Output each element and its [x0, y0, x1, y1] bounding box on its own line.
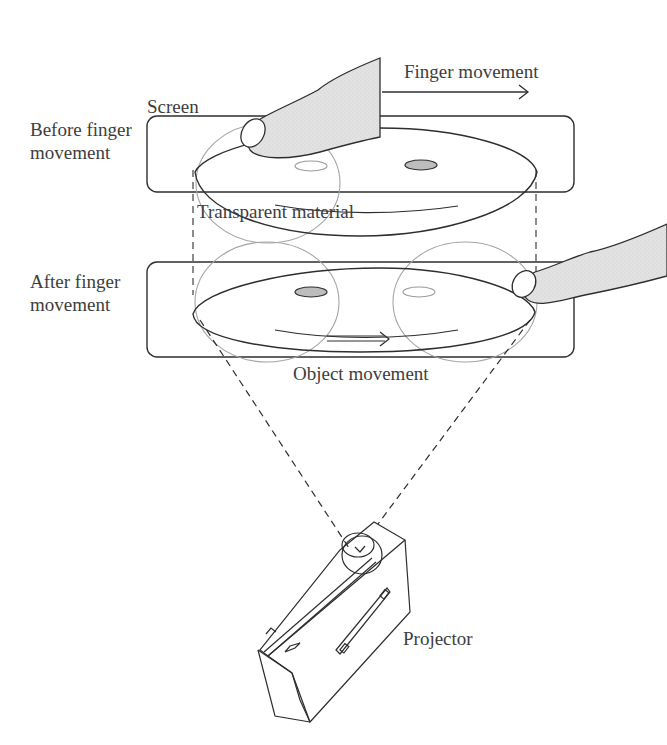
object-ellipse-bottom — [193, 268, 535, 352]
label-object-movement: Object movement — [293, 362, 429, 385]
label-projector: Projector — [403, 627, 473, 650]
finger-bottom — [522, 224, 667, 303]
label-before-line2: movement — [30, 141, 110, 164]
faint-circle-left — [195, 242, 339, 362]
projector-illustration — [258, 522, 410, 722]
label-transparent-material: Transparent material — [197, 200, 354, 223]
label-screen: Screen — [147, 95, 199, 118]
label-finger-movement: Finger movement — [404, 60, 539, 83]
target-spot-top — [405, 160, 437, 170]
faint-spot-top — [295, 161, 327, 171]
label-after-line1: After finger — [30, 270, 120, 293]
object-movement-arrowhead — [380, 332, 389, 346]
projection-line-left — [200, 320, 349, 548]
after-panel — [147, 224, 667, 362]
label-before-line1: Before finger — [30, 118, 132, 141]
label-after-line2: movement — [30, 293, 110, 316]
finger-top — [247, 58, 380, 158]
target-spot-bottom — [295, 287, 327, 297]
faint-spot-bottom — [403, 287, 435, 297]
screen-frame-bottom — [147, 262, 574, 357]
